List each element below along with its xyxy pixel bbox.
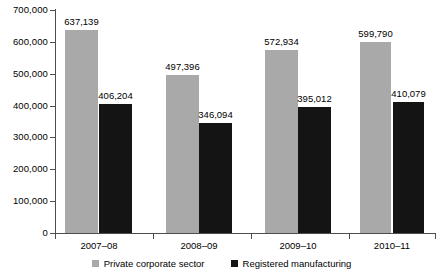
bar-registered-manufacturing xyxy=(298,107,331,233)
y-axis-tick-label: 500,000 xyxy=(13,68,48,79)
y-axis-tick xyxy=(50,201,55,202)
bar-value-label: 637,139 xyxy=(52,16,112,27)
bar-value-label: 395,012 xyxy=(285,93,345,104)
y-axis-tick-label: 0 xyxy=(43,227,48,238)
bar-value-label: 599,790 xyxy=(346,28,406,39)
x-axis-category-label: 2007–08 xyxy=(59,240,139,251)
bar-registered-manufacturing xyxy=(199,123,232,233)
legend-swatch-icon xyxy=(92,260,99,267)
y-axis-tick-label: 600,000 xyxy=(13,36,48,47)
bar-private-corporate-sector xyxy=(265,50,298,233)
x-axis-category-label: 2010–11 xyxy=(352,240,432,251)
y-axis-tick xyxy=(50,10,55,11)
bar-private-corporate-sector xyxy=(65,30,98,233)
bar-registered-manufacturing xyxy=(99,104,132,233)
x-axis-tick xyxy=(153,234,154,239)
y-axis-tick xyxy=(50,42,55,43)
bar-value-label: 406,204 xyxy=(86,90,146,101)
legend-swatch-icon xyxy=(231,260,238,267)
plot-area: 0100,000200,000300,000400,000500,000600,… xyxy=(0,0,443,276)
bar-registered-manufacturing xyxy=(393,102,424,233)
x-axis-category-label: 2009–10 xyxy=(258,240,338,251)
y-axis-line xyxy=(55,9,56,234)
y-axis-tick xyxy=(50,137,55,138)
y-axis-tick xyxy=(50,169,55,170)
chart-legend: Private corporate sectorRegistered manuf… xyxy=(0,258,443,269)
y-axis-tick-label: 400,000 xyxy=(13,100,48,111)
legend-label: Registered manufacturing xyxy=(243,258,352,269)
x-axis-tick xyxy=(55,234,56,239)
bar-private-corporate-sector xyxy=(360,42,391,233)
bar-chart: 0100,000200,000300,000400,000500,000600,… xyxy=(0,0,443,276)
bar-value-label: 572,934 xyxy=(252,36,312,47)
x-axis-tick xyxy=(251,234,252,239)
x-axis-category-label: 2008–09 xyxy=(159,240,239,251)
bar-private-corporate-sector xyxy=(166,75,199,233)
bar-value-label: 497,396 xyxy=(153,61,213,72)
y-axis-tick-label: 200,000 xyxy=(13,163,48,174)
legend-item[interactable]: Registered manufacturing xyxy=(231,258,352,269)
y-axis-tick xyxy=(50,74,55,75)
x-axis-line xyxy=(55,233,436,234)
bar-value-label: 346,094 xyxy=(186,109,246,120)
y-axis-tick xyxy=(50,106,55,107)
bar-value-label: 410,079 xyxy=(379,88,439,99)
x-axis-tick xyxy=(349,234,350,239)
y-axis-tick-label: 700,000 xyxy=(13,4,48,15)
legend-item[interactable]: Private corporate sector xyxy=(92,258,205,269)
y-axis-tick-label: 300,000 xyxy=(13,131,48,142)
y-axis-tick-label: 100,000 xyxy=(13,195,48,206)
legend-label: Private corporate sector xyxy=(104,258,205,269)
x-axis-tick xyxy=(435,234,436,239)
